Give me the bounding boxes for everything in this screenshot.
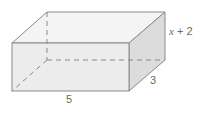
depth-label: 3 (150, 74, 156, 86)
height-label: x + 2 (168, 25, 193, 37)
prism-diagram: x + 2 3 5 (0, 0, 208, 114)
length-label: 5 (66, 93, 72, 105)
front-face (12, 43, 129, 91)
